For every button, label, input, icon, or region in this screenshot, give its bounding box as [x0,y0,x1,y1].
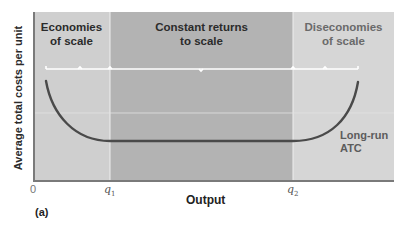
x-tick-origin: 0 [30,183,36,195]
tick-q: q [104,183,111,196]
panel-label: (a) [35,206,48,218]
label-line: of scale [33,34,110,48]
label-line: ATC [340,142,388,155]
tick-q: q [287,183,294,196]
x-axis-label: Output [186,193,225,207]
x-tick-q1: q1 [104,183,116,198]
label-line: Long-run [340,129,388,142]
x-tick-q2: q2 [287,183,299,198]
constant-returns-label: Constant returns to scale [110,20,293,48]
long-run-atc-label: Long-run ATC [340,129,388,155]
tick-sub: 1 [111,190,115,198]
label-line: of scale [293,34,394,48]
diseconomies-of-scale-label: Diseconomies of scale [293,20,394,48]
tick-sub: 2 [294,190,298,198]
long-run-atc-chart: Average total costs per unit Economies o… [0,0,407,226]
y-axis-label: Average total costs per unit [12,26,24,170]
label-line: Diseconomies [293,20,394,34]
economies-of-scale-label: Economies of scale [33,20,110,48]
label-line: to scale [110,34,293,48]
label-line: Constant returns [110,20,293,34]
label-line: Economies [33,20,110,34]
